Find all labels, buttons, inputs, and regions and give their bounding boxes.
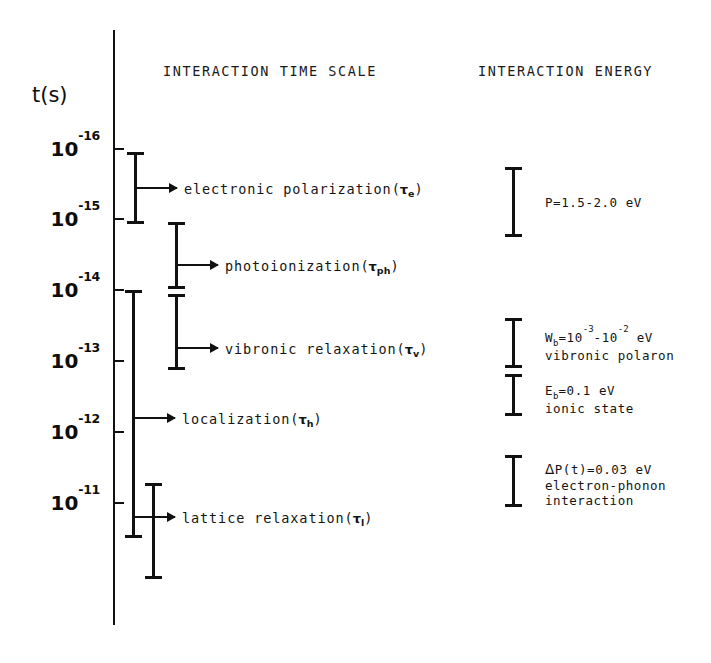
- tau-subscript: l: [361, 517, 364, 528]
- range-mid: -10: [594, 330, 618, 345]
- delta-symbol: Δ: [545, 461, 555, 477]
- tick-mantissa: 10: [50, 278, 78, 302]
- range-bar-cap-bottom: [125, 535, 142, 538]
- process-name: photoionization: [225, 258, 360, 274]
- paren-open: (: [392, 181, 400, 197]
- tick-exponent: -16: [78, 128, 100, 143]
- paren-close: ): [364, 510, 372, 526]
- range-bar-stem: [175, 294, 178, 370]
- energy-note-line2: vibronic polaron: [545, 348, 674, 364]
- tick-exponent: -12: [78, 411, 100, 426]
- tick-exponent: -15: [78, 198, 100, 213]
- process-name: electronic polarization: [184, 181, 392, 197]
- tick-exponent: -14: [78, 269, 100, 284]
- tau-symbol: τ: [405, 342, 413, 357]
- axis-tick-label-1e-16: 10-16: [20, 136, 100, 161]
- tick-mantissa: 10: [50, 207, 78, 231]
- process-label-lattice-relaxation: lattice relaxation(τl): [182, 510, 372, 526]
- tau-symbol: τ: [400, 182, 408, 197]
- range-bar-cap-bottom: [127, 221, 144, 224]
- axis-tick-1e-11: [113, 502, 124, 504]
- symbol-subscript-b: b: [553, 338, 558, 348]
- range-bar-stem: [132, 290, 135, 538]
- tau-subscript: ph: [377, 265, 391, 276]
- energy-bar-cap-bottom: [505, 413, 522, 416]
- equals-value: P(t)=0.03 eV: [555, 462, 652, 477]
- axis-tick-label-1e-14: 10-14: [20, 277, 100, 302]
- exponent-minus2: -2: [618, 324, 629, 334]
- equals-value: =10: [559, 330, 583, 345]
- interaction-time-scale-figure: INTERACTION TIME SCALE INTERACTION ENERG…: [0, 0, 711, 663]
- range-bar-lattice-relaxation: [145, 483, 162, 579]
- energy-bar-cap-bottom: [505, 234, 522, 237]
- equals-value: =0.1 eV: [559, 383, 616, 398]
- energy-bar-ionic-state: [505, 374, 522, 416]
- energy-bar-cap-bottom: [505, 504, 522, 507]
- paren-close: ): [390, 258, 398, 274]
- energy-note-line2: electron-phonon: [545, 478, 666, 494]
- time-axis-line: [113, 30, 115, 625]
- energy-note-vibronic-polaron: Wb=10-3-10-2 eV vibronic polaron: [545, 327, 674, 363]
- energy-bar-stem: [512, 455, 515, 507]
- range-bar-stem: [152, 483, 155, 579]
- tick-exponent: -11: [78, 482, 100, 497]
- range-bar-stem: [175, 222, 178, 289]
- axis-tick-label-1e-13: 10-13: [20, 348, 100, 373]
- tick-exponent: -13: [78, 340, 100, 355]
- energy-bar-cap-bottom: [505, 365, 522, 368]
- process-label-electronic-polarization: electronic polarization(τe): [184, 181, 423, 197]
- axis-tick-1e-15: [113, 218, 124, 220]
- axis-tick-label-1e-12: 10-12: [20, 419, 100, 444]
- tau-symbol: τ: [353, 511, 361, 526]
- energy-note-line1: Wb=10-3-10-2 eV: [545, 327, 674, 348]
- energy-bar-vibronic-polaron: [505, 318, 522, 368]
- energy-note-line1: Eb=0.1 eV: [545, 383, 634, 401]
- energy-bar-stem: [512, 167, 515, 237]
- tick-mantissa: 10: [50, 420, 78, 444]
- axis-tick-label-1e-15: 10-15: [20, 206, 100, 231]
- unit-ev: eV: [629, 330, 653, 345]
- energy-note-electron-phonon: ΔP(t)=0.03 eV electron-phonon interactio…: [545, 462, 666, 509]
- axis-tick-label-1e-11: 10-11: [20, 490, 100, 515]
- exponent-minus3: -3: [583, 324, 594, 334]
- tau-subscript: e: [408, 188, 414, 199]
- paren-open: (: [397, 341, 405, 357]
- symbol-W: W: [545, 330, 553, 345]
- pointer-arrow-electronic-polarization: [136, 187, 177, 189]
- tick-mantissa: 10: [50, 137, 78, 161]
- axis-tick-1e-14: [113, 289, 124, 291]
- symbol-subscript-b: b: [553, 391, 558, 401]
- paren-close: ): [419, 341, 427, 357]
- energy-bar-electron-phonon: [505, 455, 522, 507]
- pointer-arrow-vibronic-relaxation: [177, 347, 218, 349]
- energy-bar-stem: [512, 374, 515, 416]
- process-label-vibronic-relaxation: vibronic relaxation(τv): [225, 341, 427, 357]
- axis-tick-1e-16: [113, 148, 124, 150]
- process-name: localization: [182, 411, 290, 427]
- column-header-energy: INTERACTION ENERGY: [478, 63, 653, 79]
- range-bar-photoionization: [168, 222, 185, 289]
- tau-symbol: τ: [298, 412, 306, 427]
- process-name: vibronic relaxation: [225, 341, 397, 357]
- symbol-E: E: [545, 383, 553, 398]
- pointer-arrow-photoionization: [177, 264, 218, 266]
- paren-close: ): [415, 181, 423, 197]
- pointer-arrow-lattice-relaxation: [134, 516, 175, 518]
- energy-note-line1: ΔP(t)=0.03 eV: [545, 462, 666, 478]
- range-bar-cap-bottom: [145, 576, 162, 579]
- process-label-localization: localization(τh): [182, 411, 322, 427]
- range-bar-cap-bottom: [168, 367, 185, 370]
- axis-title-time: t(s): [32, 83, 68, 107]
- range-bar-cap-bottom: [168, 286, 185, 289]
- range-bar-localization: [125, 290, 142, 538]
- energy-bar-stem: [512, 318, 515, 368]
- energy-note-polarization: P=1.5-2.0 eV: [545, 195, 642, 211]
- axis-tick-1e-12: [113, 431, 124, 433]
- paren-close: ): [314, 411, 322, 427]
- tau-symbol: τ: [369, 259, 377, 274]
- range-bar-vibronic-relaxation: [168, 294, 185, 370]
- axis-tick-1e-13: [113, 360, 124, 362]
- tau-subscript: v: [413, 348, 419, 359]
- tick-mantissa: 10: [50, 349, 78, 373]
- energy-bar-polarization: [505, 167, 522, 237]
